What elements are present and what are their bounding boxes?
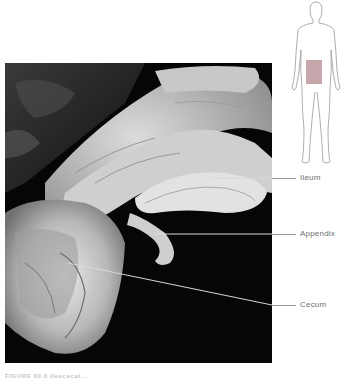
leader-line-ileum [272,178,296,179]
leader-line-cecum [272,305,296,306]
region-highlight [306,60,322,84]
label-ileum: Ileum [300,173,321,182]
figure-caption: FIGURE 00.0 Ileocecal... [5,373,87,379]
body-locator-diagram [286,0,346,170]
label-appendix: Appendix [300,229,335,238]
specimen-photo [5,63,272,363]
label-cecum: Cecum [300,300,326,309]
leader-line-appendix [272,234,296,235]
